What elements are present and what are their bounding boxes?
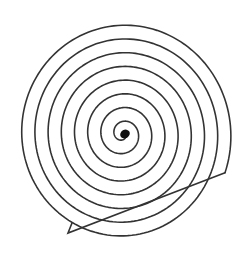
spiral-figure bbox=[0, 0, 246, 258]
